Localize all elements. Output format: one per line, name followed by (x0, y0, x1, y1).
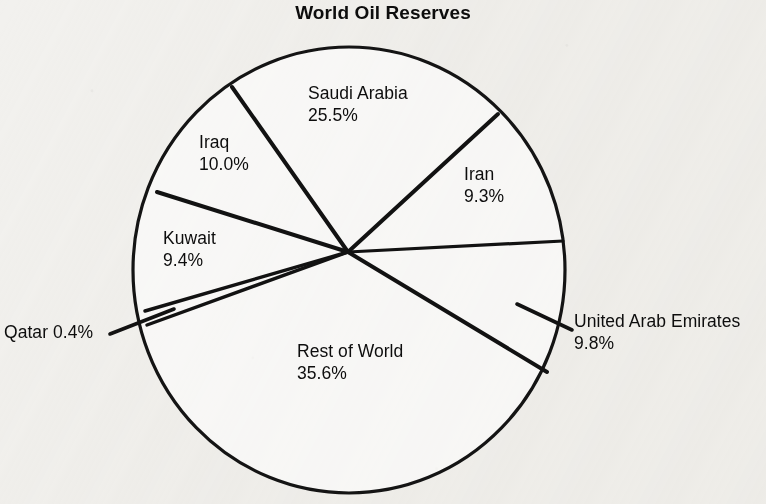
slice-label-saudi-arabia: Saudi Arabia 25.5% (308, 82, 408, 127)
slice-label-rest-of-world-name: Rest of World (297, 341, 403, 361)
slice-label-rest-of-world-value: 35.6% (297, 362, 403, 384)
slice-label-iraq-value: 10.0% (199, 153, 249, 175)
slice-label-kuwait: Kuwait 9.4% (163, 227, 216, 272)
pie-chart (0, 0, 766, 504)
slice-label-iran-name: Iran (464, 164, 494, 184)
slice-label-united-arab-emirates-value: 9.8% (574, 332, 740, 354)
slice-label-iraq-name: Iraq (199, 132, 229, 152)
slice-label-united-arab-emirates-name: United Arab Emirates (574, 311, 740, 331)
slice-label-rest-of-world: Rest of World 35.6% (297, 340, 403, 385)
slice-label-kuwait-value: 9.4% (163, 249, 216, 271)
slice-label-kuwait-name: Kuwait (163, 228, 216, 248)
slice-label-iran-value: 9.3% (464, 185, 504, 207)
slice-label-qatar-name: Qatar (4, 322, 48, 342)
slice-label-saudi-arabia-value: 25.5% (308, 104, 408, 126)
slice-label-iraq: Iraq 10.0% (199, 131, 249, 176)
slice-label-qatar-value: 0.4% (53, 322, 93, 342)
slice-label-iran: Iran 9.3% (464, 163, 504, 208)
slice-label-united-arab-emirates: United Arab Emirates 9.8% (574, 310, 740, 355)
slice-label-qatar: Qatar 0.4% (4, 321, 93, 343)
slice-label-saudi-arabia-name: Saudi Arabia (308, 83, 408, 103)
